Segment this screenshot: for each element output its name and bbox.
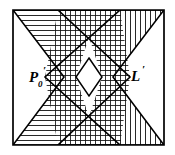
l-prime-label-prime: ′ [142, 63, 145, 75]
p0-prime-label-prime: ′ [43, 64, 46, 76]
figure-container: P 0 ′ L ′ [0, 0, 175, 155]
p0-prime-label-subscript: 0 [38, 79, 43, 89]
l-prime-label-base: L [130, 68, 140, 84]
geometric-figure: P 0 ′ L ′ [0, 0, 175, 155]
